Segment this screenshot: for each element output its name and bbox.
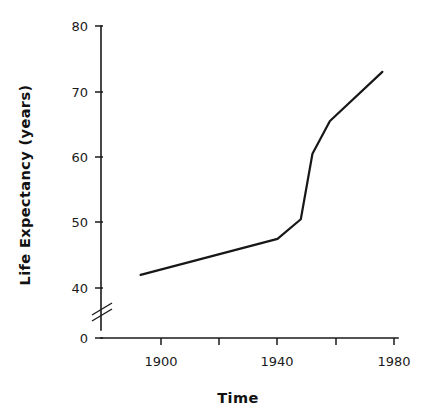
y-tick-label-80: 80 — [71, 19, 88, 34]
y-tick-label-0: 0 — [80, 331, 88, 346]
y-axis-title: Life Expectancy (years) — [17, 85, 33, 286]
chart-container: 80 70 60 50 40 0 1900 1940 1980 Life Exp… — [0, 0, 432, 416]
line-chart: 80 70 60 50 40 0 1900 1940 1980 Life Exp… — [0, 0, 432, 416]
x-tick-marks — [161, 338, 394, 345]
y-axis-break-icon — [92, 303, 112, 321]
y-tick-label-60: 60 — [71, 150, 88, 165]
x-tick-label-1900: 1900 — [144, 354, 177, 369]
x-axis-title: Time — [217, 390, 258, 406]
life-expectancy-line — [141, 72, 383, 275]
y-tick-label-40: 40 — [71, 281, 88, 296]
x-tick-label-1940: 1940 — [260, 354, 293, 369]
x-tick-label-1980: 1980 — [377, 354, 410, 369]
y-tick-label-50: 50 — [71, 215, 88, 230]
y-tick-label-70: 70 — [71, 85, 88, 100]
